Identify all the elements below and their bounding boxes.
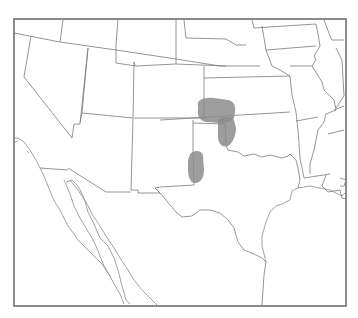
shaded-regions (188, 98, 236, 183)
map (0, 0, 358, 318)
coastlines (14, 138, 158, 306)
shaded-region-new-mexico (188, 151, 204, 183)
shaded-region-oklahoma (218, 117, 236, 147)
state-borders (14, 20, 346, 305)
map-frame (14, 19, 346, 306)
